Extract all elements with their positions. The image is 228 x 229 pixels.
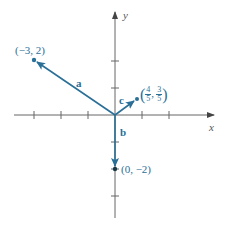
point-b-label: (0, −2) [121,164,151,175]
vector-a-label: a [76,78,82,89]
vector-diagram [0,0,228,229]
point-c-label: (45, 35) [140,86,168,103]
vector-b [113,115,117,171]
y-axis-label: y [123,10,128,21]
vector-b-label: b [120,127,126,138]
point-a-label: (−3, 2) [15,45,45,56]
vector-c-label: c [119,95,124,106]
x-axis-label: x [209,122,214,133]
c-x-denominator: 5 [145,95,151,103]
vector-a [32,58,115,115]
